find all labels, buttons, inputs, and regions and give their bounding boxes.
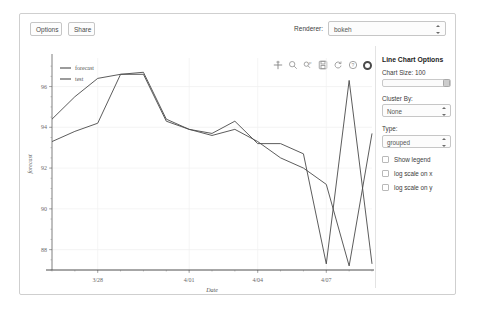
log-scale-y-checkbox[interactable] bbox=[382, 184, 389, 191]
log-scale-y-checkbox-row[interactable]: log scale on y bbox=[382, 184, 452, 191]
panel-title: Line Chart Options bbox=[382, 56, 452, 63]
type-select[interactable]: grouped bbox=[382, 135, 451, 148]
cluster-by-select[interactable]: None bbox=[382, 104, 451, 117]
chevron-updown-icon bbox=[441, 138, 446, 147]
svg-text:test: test bbox=[75, 76, 84, 82]
svg-text:4/07: 4/07 bbox=[321, 277, 332, 283]
content-region: P ? bbox=[20, 44, 455, 294]
chart-size-slider[interactable] bbox=[382, 79, 451, 87]
share-button[interactable]: Share bbox=[68, 22, 95, 36]
slider-knob[interactable] bbox=[443, 79, 450, 87]
show-legend-checkbox-row[interactable]: Show legend bbox=[382, 156, 452, 163]
svg-text:88: 88 bbox=[41, 247, 47, 253]
type-value: grouped bbox=[387, 139, 410, 146]
cluster-by-label: Cluster By: bbox=[382, 95, 452, 102]
chart-size-label: Chart Size: 100 bbox=[382, 69, 452, 76]
log-scale-y-label: log scale on y bbox=[394, 184, 433, 191]
renderer-selected-value: bokeh bbox=[334, 26, 352, 33]
svg-text:90: 90 bbox=[41, 206, 47, 212]
svg-text:Date: Date bbox=[205, 287, 218, 293]
chevron-updown-icon bbox=[441, 107, 446, 116]
svg-text:96: 96 bbox=[41, 84, 47, 90]
log-scale-x-checkbox[interactable] bbox=[382, 170, 389, 177]
line-chart-plot[interactable]: P ? bbox=[20, 44, 376, 296]
top-toolbar: Options Share Renderer: bokeh bbox=[20, 14, 455, 44]
renderer-select[interactable]: bokeh bbox=[328, 21, 446, 36]
chart-canvas: 96949290883/284/014/044/07Dateforecastfo… bbox=[20, 44, 376, 296]
cluster-by-value: None bbox=[387, 108, 402, 115]
show-legend-label: Show legend bbox=[394, 156, 430, 163]
log-scale-x-checkbox-row[interactable]: log scale on x bbox=[382, 170, 452, 177]
svg-text:3/28: 3/28 bbox=[92, 277, 103, 283]
svg-text:4/04: 4/04 bbox=[252, 277, 263, 283]
svg-text:94: 94 bbox=[41, 124, 47, 130]
svg-text:92: 92 bbox=[41, 165, 47, 171]
chevron-updown-icon bbox=[435, 25, 440, 34]
svg-text:forecast: forecast bbox=[75, 65, 94, 71]
line-chart-options-panel: Line Chart Options Chart Size: 100 Clust… bbox=[382, 56, 452, 198]
renderer-label: Renderer: bbox=[294, 25, 323, 32]
renderer-control: Renderer: bokeh bbox=[294, 21, 446, 36]
type-label: Type: bbox=[382, 125, 452, 132]
svg-text:forecast: forecast bbox=[27, 154, 33, 173]
options-button[interactable]: Options bbox=[30, 22, 62, 36]
show-legend-checkbox[interactable] bbox=[382, 156, 389, 163]
chart-app-card: Options Share Renderer: bokeh bbox=[19, 13, 456, 295]
log-scale-x-label: log scale on x bbox=[394, 170, 433, 177]
svg-text:4/01: 4/01 bbox=[184, 277, 195, 283]
